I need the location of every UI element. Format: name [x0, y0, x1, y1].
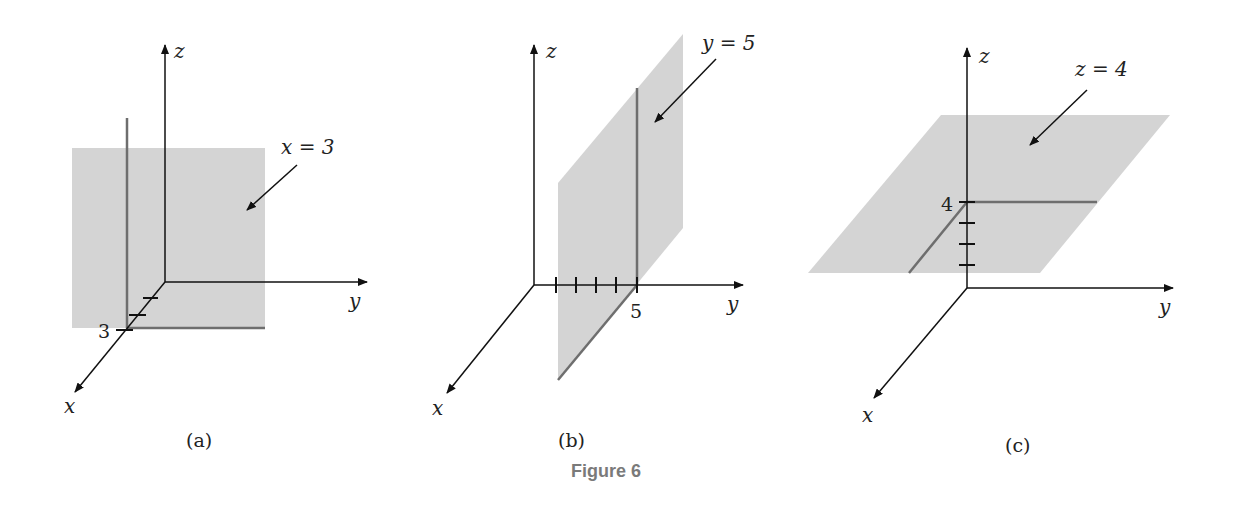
- panel-b: 5 z y x y = 5 (b): [432, 31, 756, 451]
- y-axis-label: y: [348, 289, 361, 313]
- tick-label: 3: [98, 320, 110, 342]
- plane-z-4: [808, 115, 1170, 273]
- y-axis-label: y: [1158, 295, 1171, 319]
- equation-label: z = 4: [1074, 57, 1128, 81]
- figure-caption: Figure 6: [571, 461, 641, 481]
- tick-label: 4: [941, 193, 953, 215]
- y-axis-label: y: [726, 292, 739, 316]
- panel-caption: (b): [558, 429, 585, 451]
- panel-a: 3 z y x x = 3 (a): [64, 39, 367, 451]
- figure-svg: 3 z y x x = 3 (a) 5 z y x y = 5 (b): [0, 0, 1233, 515]
- plane-y-5: [558, 34, 683, 380]
- x-axis-label: x: [862, 403, 873, 427]
- x-axis: [447, 285, 534, 393]
- z-axis-label: z: [173, 39, 185, 63]
- x-axis-label: x: [64, 394, 75, 418]
- plane-x-3: [72, 148, 265, 328]
- x-axis: [874, 288, 967, 398]
- figure-6: 3 z y x x = 3 (a) 5 z y x y = 5 (b): [0, 0, 1233, 515]
- equation-label: y = 5: [701, 31, 756, 55]
- panel-caption: (c): [1005, 434, 1030, 456]
- panel-caption: (a): [186, 429, 212, 451]
- x-axis-label: x: [432, 396, 443, 420]
- equation-label: x = 3: [281, 135, 334, 159]
- z-axis-label: z: [545, 39, 557, 63]
- tick-label: 5: [630, 300, 642, 322]
- z-axis-label: z: [978, 44, 990, 68]
- panel-c: 4 z y x z = 4 (c): [808, 44, 1173, 456]
